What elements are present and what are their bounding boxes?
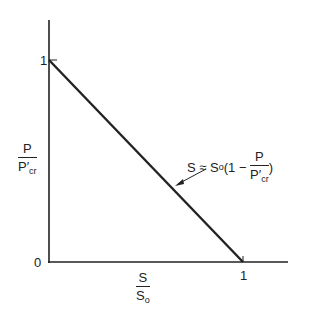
y-label-den: P′cr bbox=[18, 158, 37, 176]
y-axis-label: P P′cr bbox=[18, 142, 37, 176]
x-label-den: So bbox=[136, 287, 150, 305]
equation-annotation: S ≈ So (1 − P P′cr ) bbox=[187, 150, 273, 184]
origin-label: 0 bbox=[34, 256, 41, 269]
arrowhead-icon bbox=[175, 179, 184, 186]
y-label-num: P bbox=[18, 142, 37, 158]
y-tick-label: 1 bbox=[40, 54, 47, 67]
x-axis-label: S So bbox=[136, 271, 150, 305]
x-label-num: S bbox=[136, 271, 150, 287]
x-tick-label: 1 bbox=[240, 269, 247, 282]
equation-fraction: P P′cr bbox=[250, 150, 269, 184]
